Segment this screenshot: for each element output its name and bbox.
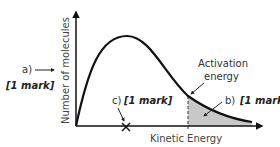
y-axis-label: Number of molecules xyxy=(60,17,71,124)
label-a: a) xyxy=(22,64,32,75)
arrow-c xyxy=(118,108,124,121)
label-c-mark: [1 mark] xyxy=(123,95,173,106)
activation-energy-label-line1: Activation xyxy=(198,58,248,69)
label-b-mark: [1 mark] xyxy=(239,95,280,106)
label-c: c) xyxy=(112,95,121,106)
maxwell-boltzmann-diagram: Number of molecules Kinetic Energy a) [1… xyxy=(0,0,280,147)
x-axis-label: Kinetic Energy xyxy=(150,133,222,144)
arrow-activation-energy xyxy=(191,83,204,94)
label-a-mark: [1 mark] xyxy=(5,80,55,91)
label-b: b) xyxy=(225,95,235,106)
activation-energy-label-line2: energy xyxy=(204,71,239,82)
cross-marker-icon xyxy=(122,123,130,131)
